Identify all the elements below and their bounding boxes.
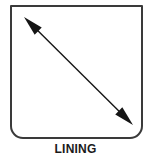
lining-figure: LINING <box>0 0 151 158</box>
lining-panel-graphic <box>0 0 151 158</box>
figure-caption: LINING <box>0 142 151 156</box>
